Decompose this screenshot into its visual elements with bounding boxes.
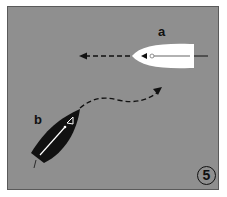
boat-a-label: a xyxy=(158,24,165,39)
boat-b-course-arrow xyxy=(80,87,162,108)
boats-scene xyxy=(0,0,227,197)
boat-b-label: b xyxy=(34,112,42,127)
panel-number-badge: 5 xyxy=(197,166,216,185)
boat-a xyxy=(132,44,194,68)
